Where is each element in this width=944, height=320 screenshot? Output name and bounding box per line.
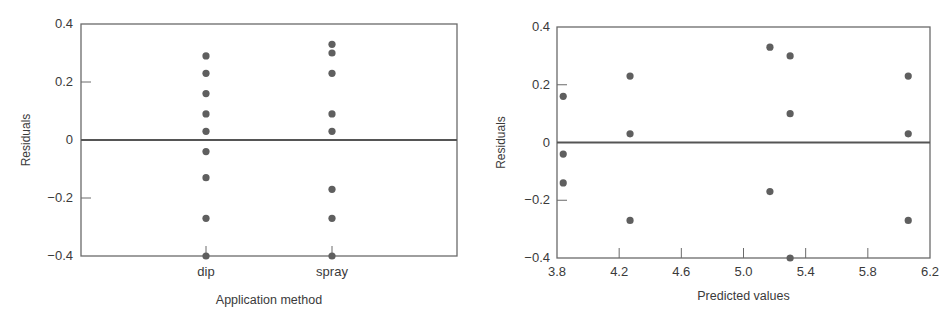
data-point [202, 110, 209, 117]
data-point [787, 110, 794, 117]
data-point [626, 72, 633, 79]
x-tick-label: 5.4 [797, 264, 815, 279]
y-tick-label: −0.4 [524, 250, 550, 265]
x-axis-label: Predicted values [697, 289, 789, 303]
y-axis-label: Residuals [494, 116, 508, 169]
data-point [560, 150, 567, 157]
data-point [202, 252, 209, 259]
x-tick-label: 3.8 [548, 264, 566, 279]
data-point [328, 128, 335, 135]
y-tick-label: 0 [66, 132, 73, 147]
x-axis-label: Application method [216, 293, 322, 307]
data-point [202, 174, 209, 181]
data-point [328, 70, 335, 77]
y-tick-label: −0.4 [47, 248, 73, 263]
y-tick-label: 0.2 [532, 77, 550, 92]
data-point [766, 44, 773, 51]
data-point [328, 110, 335, 117]
data-point [787, 254, 794, 261]
x-tick-label: dip [197, 264, 214, 279]
data-point [787, 52, 794, 59]
x-tick-label: spray [316, 264, 348, 279]
y-tick-label: 0.2 [55, 74, 73, 89]
residuals-vs-predicted-chart: 0.40.20−0.2−0.4Residuals3.84.24.65.05.45… [470, 0, 944, 320]
data-point [202, 215, 209, 222]
data-point [202, 70, 209, 77]
residuals-vs-method-chart: 0.40.20−0.2−0.4ResidualsdipsprayApplicat… [0, 0, 470, 320]
data-point [905, 130, 912, 137]
data-point [328, 41, 335, 48]
chart-1-canvas: 0.40.20−0.2−0.4ResidualsdipsprayApplicat… [0, 0, 470, 320]
data-point [202, 90, 209, 97]
x-tick-label: 5.8 [859, 264, 877, 279]
data-point [202, 148, 209, 155]
data-point [328, 49, 335, 56]
x-tick-label: 6.2 [921, 264, 939, 279]
y-tick-label: 0 [543, 135, 550, 150]
x-tick-label: 4.2 [610, 264, 628, 279]
y-tick-label: −0.2 [47, 190, 73, 205]
data-point [202, 128, 209, 135]
chart-2-canvas: 0.40.20−0.2−0.4Residuals3.84.24.65.05.45… [470, 0, 944, 320]
data-point [626, 217, 633, 224]
data-point [328, 186, 335, 193]
x-tick-label: 4.6 [672, 264, 690, 279]
data-point [328, 252, 335, 259]
data-point [560, 93, 567, 100]
data-point [328, 215, 335, 222]
data-point [626, 130, 633, 137]
y-tick-label: −0.2 [524, 192, 550, 207]
data-point [560, 179, 567, 186]
x-tick-label: 5.0 [734, 264, 752, 279]
y-tick-label: 0.4 [55, 16, 73, 31]
data-point [905, 72, 912, 79]
data-point [202, 52, 209, 59]
data-point [905, 217, 912, 224]
y-tick-label: 0.4 [532, 19, 550, 34]
data-point [766, 188, 773, 195]
y-axis-label: Residuals [19, 114, 33, 167]
